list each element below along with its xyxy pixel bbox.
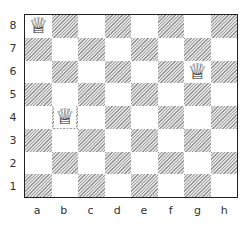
square-g3[interactable] <box>184 129 211 152</box>
square-b8[interactable] <box>52 15 79 38</box>
white-queen-icon[interactable]: ♕ <box>54 106 76 128</box>
rank-label: 2 <box>8 157 18 170</box>
square-d8[interactable] <box>105 15 132 38</box>
square-g2[interactable] <box>184 152 211 175</box>
square-g8[interactable] <box>184 15 211 38</box>
square-d3[interactable] <box>105 129 132 152</box>
square-c7[interactable] <box>78 38 105 61</box>
square-e3[interactable] <box>131 129 158 152</box>
square-e2[interactable] <box>131 152 158 175</box>
square-b6[interactable] <box>52 61 79 84</box>
file-label: g <box>192 204 204 217</box>
square-d7[interactable] <box>105 38 132 61</box>
chessboard: ♕♕♕ <box>24 14 238 198</box>
square-h6[interactable] <box>211 61 238 84</box>
file-label: b <box>58 204 70 217</box>
square-d4[interactable] <box>105 106 132 129</box>
square-e5[interactable] <box>131 83 158 106</box>
square-b3[interactable] <box>52 129 79 152</box>
white-queen-icon[interactable]: ♕ <box>27 15 49 37</box>
square-a5[interactable] <box>25 83 52 106</box>
rank-label: 4 <box>8 111 18 124</box>
square-g6[interactable]: ♕ <box>184 61 211 84</box>
square-a7[interactable] <box>25 38 52 61</box>
square-h3[interactable] <box>211 129 238 152</box>
square-h7[interactable] <box>211 38 238 61</box>
square-e8[interactable] <box>131 15 158 38</box>
file-label: f <box>165 204 177 217</box>
square-g7[interactable] <box>184 38 211 61</box>
square-h5[interactable] <box>211 83 238 106</box>
square-a6[interactable] <box>25 61 52 84</box>
square-g4[interactable] <box>184 106 211 129</box>
file-label: h <box>218 204 230 217</box>
square-e7[interactable] <box>131 38 158 61</box>
file-label: d <box>111 204 123 217</box>
white-queen-icon[interactable]: ♕ <box>186 61 208 83</box>
rank-label: 6 <box>8 65 18 78</box>
file-label: c <box>85 204 97 217</box>
square-e6[interactable] <box>131 61 158 84</box>
square-g1[interactable] <box>184 174 211 197</box>
square-d2[interactable] <box>105 152 132 175</box>
square-f6[interactable] <box>158 61 185 84</box>
square-f5[interactable] <box>158 83 185 106</box>
square-c5[interactable] <box>78 83 105 106</box>
square-h8[interactable] <box>211 15 238 38</box>
square-c3[interactable] <box>78 129 105 152</box>
rank-label: 7 <box>8 42 18 55</box>
square-d6[interactable] <box>105 61 132 84</box>
square-b4[interactable]: ♕ <box>52 106 79 129</box>
square-b5[interactable] <box>52 83 79 106</box>
square-c8[interactable] <box>78 15 105 38</box>
square-a2[interactable] <box>25 152 52 175</box>
file-label: e <box>138 204 150 217</box>
square-a1[interactable] <box>25 174 52 197</box>
file-label: a <box>31 204 43 217</box>
square-e1[interactable] <box>131 174 158 197</box>
square-a4[interactable] <box>25 106 52 129</box>
square-a3[interactable] <box>25 129 52 152</box>
square-d1[interactable] <box>105 174 132 197</box>
square-c6[interactable] <box>78 61 105 84</box>
square-c4[interactable] <box>78 106 105 129</box>
square-f4[interactable] <box>158 106 185 129</box>
rank-label: 8 <box>8 19 18 32</box>
square-a8[interactable]: ♕ <box>25 15 52 38</box>
square-e4[interactable] <box>131 106 158 129</box>
square-h2[interactable] <box>211 152 238 175</box>
rank-label: 1 <box>8 180 18 193</box>
rank-label: 3 <box>8 134 18 147</box>
square-b1[interactable] <box>52 174 79 197</box>
square-b7[interactable] <box>52 38 79 61</box>
square-g5[interactable] <box>184 83 211 106</box>
square-h4[interactable] <box>211 106 238 129</box>
square-f3[interactable] <box>158 129 185 152</box>
square-c1[interactable] <box>78 174 105 197</box>
square-d5[interactable] <box>105 83 132 106</box>
square-f2[interactable] <box>158 152 185 175</box>
square-f7[interactable] <box>158 38 185 61</box>
rank-label: 5 <box>8 88 18 101</box>
square-h1[interactable] <box>211 174 238 197</box>
square-f8[interactable] <box>158 15 185 38</box>
square-c2[interactable] <box>78 152 105 175</box>
square-b2[interactable] <box>52 152 79 175</box>
square-f1[interactable] <box>158 174 185 197</box>
